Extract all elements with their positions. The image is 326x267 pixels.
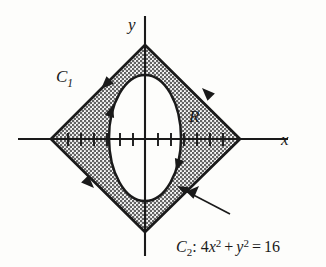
region-label: R: [188, 107, 200, 126]
c2-caption-x: x: [208, 238, 216, 255]
c2-caption-name: C: [176, 238, 187, 255]
curve-c1-label-subscript: 1: [67, 77, 73, 89]
c2-caption-y-exponent: 2: [243, 237, 249, 249]
curve-c2-caption: C2:4x2+y2=16: [176, 237, 280, 258]
y-axis-label: y: [126, 15, 136, 34]
figure-root: x y C1 R C2:4x2+y2=16: [0, 0, 326, 267]
c2-caption-coeff: 4: [201, 238, 209, 255]
curve-c1-label-name: C: [56, 67, 68, 86]
x-axis-label: x: [280, 130, 289, 149]
region-diagram: x y C1 R C2:4x2+y2=16: [0, 0, 326, 267]
c2-caption-plus: +: [224, 238, 233, 255]
c2-caption-rhs: 16: [264, 238, 280, 255]
region-shading: [0, 0, 326, 267]
c2-caption-equals: =: [252, 238, 261, 255]
c2-caption-x-exponent: 2: [216, 237, 222, 249]
c2-caption-colon: :: [192, 238, 196, 255]
